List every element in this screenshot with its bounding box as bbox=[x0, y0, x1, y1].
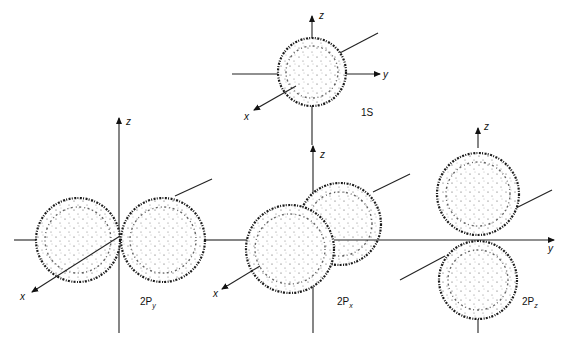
x-axis-line-back bbox=[373, 174, 410, 192]
orbital-1s: z y x 1S bbox=[232, 10, 389, 145]
lobe-bottom bbox=[439, 241, 517, 319]
z-label: z bbox=[125, 116, 131, 127]
orbital-label-2px: 2Px bbox=[337, 296, 353, 309]
orbital-sphere-1s bbox=[278, 38, 346, 106]
orbital-svg: z y x 1S z x 2Py z x 2Px bbox=[0, 0, 562, 345]
z-label: z bbox=[319, 149, 325, 160]
x-axis-arrow bbox=[222, 266, 260, 289]
orbital-2py: z x 2Py bbox=[14, 116, 232, 333]
lobe-right bbox=[121, 198, 205, 282]
orbital-label-2pz: 2Pz bbox=[522, 296, 538, 309]
z-label: z bbox=[318, 10, 324, 21]
x-label: x bbox=[243, 111, 250, 122]
x-axis-line-back bbox=[514, 190, 552, 209]
z-label: z bbox=[483, 121, 489, 132]
lobe-front bbox=[246, 205, 334, 293]
y-label: y bbox=[547, 243, 554, 254]
x-label: x bbox=[212, 288, 219, 299]
orbital-label-2py: 2Py bbox=[140, 296, 156, 310]
y-label: y bbox=[382, 69, 389, 80]
orbital-diagram: z y x 1S z x 2Py z x 2Px bbox=[0, 0, 562, 345]
orbital-label-1s: 1S bbox=[361, 107, 374, 118]
orbital-2pz: z y 2Pz bbox=[400, 121, 554, 333]
x-label: x bbox=[19, 291, 26, 302]
x-axis-line-back bbox=[175, 179, 212, 196]
x-axis-line-back bbox=[336, 33, 378, 55]
lobe-left bbox=[36, 198, 120, 282]
orbital-2px: z x 2Px bbox=[212, 146, 420, 333]
lobe-top bbox=[437, 153, 519, 235]
